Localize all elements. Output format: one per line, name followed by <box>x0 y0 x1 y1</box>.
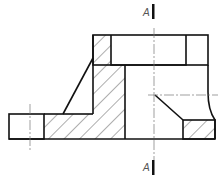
section-markers: A A <box>142 4 155 175</box>
pocket-outline <box>111 35 186 65</box>
hatched-sections <box>44 35 215 139</box>
section-label-top: A <box>142 7 150 18</box>
hatch-right-lug <box>183 120 215 139</box>
rib-outline <box>63 58 93 114</box>
base-left-outline <box>9 114 44 139</box>
hatch-left-web <box>44 35 125 139</box>
chamfer <box>155 95 183 120</box>
section-marker-top <box>152 4 155 19</box>
section-label-bottom: A <box>142 162 150 173</box>
section-drawing: A A <box>0 0 224 181</box>
section-marker-bottom <box>152 160 155 175</box>
